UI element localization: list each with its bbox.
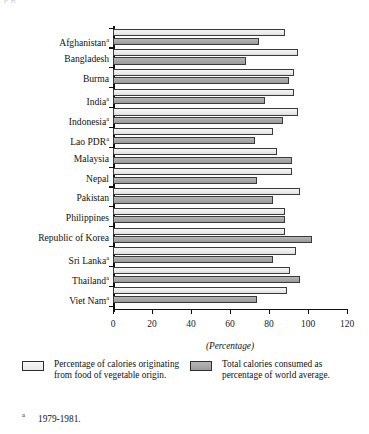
footnote-mark: a xyxy=(22,411,25,418)
category-footnote-mark: a xyxy=(106,135,109,142)
bar-total-calories xyxy=(113,276,300,283)
category-label-text: Bangladesh xyxy=(64,53,109,64)
bar-total-calories xyxy=(113,216,285,223)
chart-page: p g 020406080100120 (Percentage) Percent… xyxy=(0,0,369,434)
bar-group xyxy=(113,228,347,248)
bar-vegetable-origin xyxy=(113,267,290,274)
bar-total-calories xyxy=(113,236,312,243)
bar-group xyxy=(113,29,347,49)
bar-total-calories xyxy=(113,196,273,203)
category-label-text: Indonesia xyxy=(69,116,106,127)
category-label: Republic of Korea xyxy=(1,233,109,243)
x-axis-tick xyxy=(308,309,309,314)
y-axis-tick xyxy=(109,107,114,108)
bar-group xyxy=(113,267,347,287)
bar-total-calories xyxy=(113,97,265,104)
bar-vegetable-origin xyxy=(113,247,296,254)
bar-total-calories xyxy=(113,117,283,124)
category-label-text: Sri Lanka xyxy=(69,255,107,266)
bar-total-calories xyxy=(113,38,259,45)
category-label-text: Republic of Korea xyxy=(38,232,109,243)
bar-vegetable-origin xyxy=(113,89,294,96)
y-axis-tick xyxy=(109,167,114,168)
category-label: Bangladesh xyxy=(1,54,109,64)
category-label-text: Philippines xyxy=(66,212,109,223)
category-label: Burma xyxy=(1,74,109,84)
x-axis-tick xyxy=(113,309,114,314)
bar-total-calories xyxy=(113,296,257,303)
bar-vegetable-origin xyxy=(113,188,300,195)
category-label: Afghanistana xyxy=(1,35,109,48)
footnote-text: 1979-1981. xyxy=(38,414,81,424)
y-axis-tick xyxy=(109,206,114,207)
x-axis-tick xyxy=(230,309,231,314)
category-label: Sri Lankaa xyxy=(1,253,109,266)
category-footnote-mark: a xyxy=(106,115,109,122)
light-swatch-icon xyxy=(22,361,44,371)
bar-group xyxy=(113,128,347,148)
y-axis-tick xyxy=(109,246,114,247)
bar-total-calories xyxy=(113,157,292,164)
bar-vegetable-origin xyxy=(113,168,292,175)
bar-total-calories xyxy=(113,177,257,184)
category-footnote-mark: a xyxy=(106,294,109,301)
category-label-text: Afghanistan xyxy=(59,37,106,48)
bar-chart-plot-area: 020406080100120 xyxy=(113,28,347,310)
x-axis-tick xyxy=(152,309,153,314)
bar-total-calories xyxy=(113,256,273,263)
bar-vegetable-origin xyxy=(113,287,287,294)
bar-group xyxy=(113,168,347,188)
bar-vegetable-origin xyxy=(113,128,273,135)
category-label: Thailanda xyxy=(1,273,109,286)
category-label-text: Lao PDR xyxy=(70,136,106,147)
bar-vegetable-origin xyxy=(113,69,294,76)
bar-vegetable-origin xyxy=(113,49,298,56)
bar-vegetable-origin xyxy=(113,29,285,36)
legend-label-vegetable-origin: Percentage of calories originating from … xyxy=(54,359,189,382)
y-axis-tick xyxy=(109,306,114,307)
x-axis-tick-label: 80 xyxy=(254,319,284,329)
x-axis-tick-label: 100 xyxy=(293,319,323,329)
bar-vegetable-origin xyxy=(113,108,298,115)
bar-total-calories xyxy=(113,57,246,64)
category-label-text: Pakistan xyxy=(76,192,109,203)
category-label: Nepal xyxy=(1,174,109,184)
category-label-text: Thailand xyxy=(72,275,106,286)
category-label: Pakistan xyxy=(1,193,109,203)
category-label: Malaysia xyxy=(1,154,109,164)
bar-group xyxy=(113,49,347,69)
bar-group xyxy=(113,69,347,89)
cropped-header-text: p g xyxy=(4,0,15,3)
category-label-text: Burma xyxy=(83,73,109,84)
legend-label-total-calories: Total calories consumed as percentage of… xyxy=(222,359,357,382)
bar-total-calories xyxy=(113,137,255,144)
x-axis-tick-label: 0 xyxy=(98,319,128,329)
bar-group xyxy=(113,188,347,208)
category-footnote-mark: a xyxy=(106,36,109,43)
category-label-text: Malaysia xyxy=(74,153,109,164)
y-axis-tick xyxy=(109,147,114,148)
bar-group xyxy=(113,108,347,128)
y-axis-tick xyxy=(109,286,114,287)
y-axis-tick xyxy=(109,47,114,48)
x-axis-tick-label: 120 xyxy=(332,319,362,329)
x-axis-tick xyxy=(191,309,192,314)
dark-swatch-icon xyxy=(190,361,212,371)
category-label-text: India xyxy=(86,96,106,107)
bar-vegetable-origin xyxy=(113,228,285,235)
x-axis-caption: (Percentage) xyxy=(113,341,347,351)
y-axis-tick xyxy=(109,67,114,68)
bar-group xyxy=(113,247,347,267)
category-label: Viet Nama xyxy=(1,293,109,306)
bar-total-calories xyxy=(113,77,289,84)
category-footnote-mark: a xyxy=(106,274,109,281)
category-footnote-mark: a xyxy=(106,254,109,261)
cropped-header-strip: p g xyxy=(0,0,369,9)
bar-group xyxy=(113,287,347,307)
category-label-text: Viet Nam xyxy=(69,295,106,306)
x-axis-tick-label: 20 xyxy=(137,319,167,329)
category-label: Indiaa xyxy=(1,94,109,107)
bar-group xyxy=(113,208,347,228)
y-axis-tick xyxy=(109,226,114,227)
y-axis-tick xyxy=(109,266,114,267)
